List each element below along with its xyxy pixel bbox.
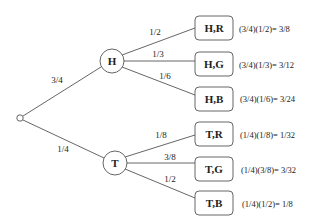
outcome-label: H,G [204,58,224,70]
outcome-label: T,B [206,197,223,209]
result-tg: (1/4)(3/8)= 3/32 [241,165,296,175]
outcome-box-tr: T,R [195,122,233,146]
outcome-box-hb: H,B [195,87,233,111]
edge-label-hb: 1/6 [159,71,171,81]
node-t-label: T [111,157,119,169]
node-h: H [100,49,124,73]
result-tb: (1/4)(1/2)= 1/8 [242,199,293,209]
probability-tree-diagram: H T 3/4 1/4 1/2 1/3 1/6 1/8 3/8 1/2 H,R … [0,0,313,222]
edge-label-hr: 1/2 [149,27,161,37]
result-hr: (3/4)(1/2)= 3/8 [239,24,290,34]
edge-label-tg: 3/8 [164,152,176,162]
result-hg: (3/4)(1/3)= 3/12 [239,60,294,70]
result-tr: (1/4)(1/8)= 1/32 [240,130,295,140]
edge-label-tb: 1/2 [164,174,176,184]
edge-label-hg: 1/3 [152,49,164,59]
outcome-box-hr: H,R [195,16,233,40]
outcome-label: T,R [205,128,223,140]
outcome-box-hg: H,G [195,52,233,76]
outcome-label: H,B [205,93,224,105]
outcome-box-tb: T,B [195,191,233,215]
node-h-label: H [108,55,117,67]
edge-label-t: 1/4 [57,144,69,154]
root-node [17,115,23,121]
outcome-label: T,G [205,163,223,175]
edge-label-tr: 1/8 [155,130,167,140]
node-t: T [103,151,127,175]
edge-t-b [125,169,195,198]
edge-label-h: 3/4 [51,75,63,85]
outcome-box-tg: T,G [195,157,233,181]
result-hb: (3/4)(1/6)= 3/24 [240,94,296,104]
outcome-label: H,R [204,22,224,34]
